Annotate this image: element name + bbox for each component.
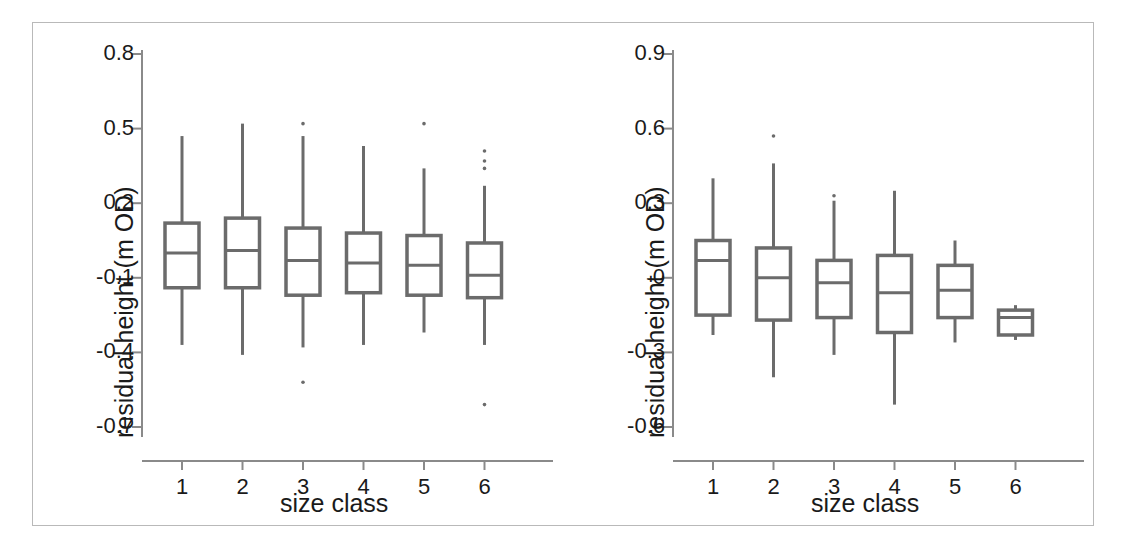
box-5 [938,241,972,343]
x-tick-label: 1 [688,474,738,500]
y-tick-label: -0.3 [593,338,665,364]
box-4 [347,146,381,345]
y-tick-label: 0 [593,264,665,290]
y-tick-label: -0.1 [62,264,134,290]
box-3 [817,194,851,355]
y-tick-label: -0.4 [62,338,134,364]
box-6 [468,149,502,406]
x-tick-label: 2 [749,474,799,500]
x-tick-label: 6 [460,474,510,500]
figure-page: residual height (m OD) size class 0.80.5… [0,0,1124,548]
box-3 [286,122,320,384]
box-5 [407,122,441,333]
x-tick-label: 3 [278,474,328,500]
x-tick-label: 1 [157,474,207,500]
y-tick-label: -0.6 [593,413,665,439]
x-tick-label: 4 [870,474,920,500]
x-tick-label: 6 [991,474,1041,500]
x-tick-label: 5 [399,474,449,500]
y-tick-label: 0.2 [62,189,134,215]
box-2 [226,124,260,355]
box-4 [878,191,912,405]
box-6 [999,305,1033,340]
y-axis-title-right: residual height (m OD) [641,187,670,438]
y-tick-label: 0.6 [593,115,665,141]
y-tick-label: 0.9 [593,40,665,66]
y-tick-label: 0.3 [593,189,665,215]
box-1 [696,178,730,335]
x-tick-label: 2 [218,474,268,500]
x-tick-label: 4 [339,474,389,500]
box-1 [165,136,199,345]
y-tick-label: -0.7 [62,413,134,439]
x-tick-label: 5 [930,474,980,500]
y-tick-label: 0.8 [62,40,134,66]
box-2 [757,134,791,377]
panel-right: residual height (m OD) size class 0.90.6… [563,22,1094,526]
panel-left: residual height (m OD) size class 0.80.5… [32,22,563,526]
y-tick-label: 0.5 [62,115,134,141]
x-tick-label: 3 [809,474,859,500]
y-axis-title-left: residual height (m OD) [110,187,139,438]
